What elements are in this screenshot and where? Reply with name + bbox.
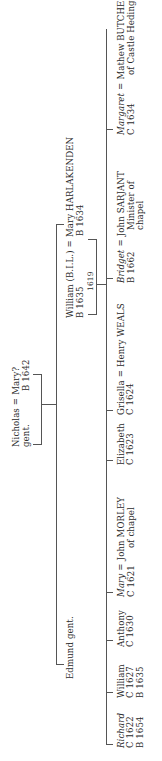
- mary-label: Mary?: [11, 367, 21, 395]
- connector: [106, 592, 113, 593]
- edmund-name: Edmund gent.: [66, 616, 75, 679]
- spouse-name: Henry WEALS: [116, 303, 126, 367]
- connector: [41, 374, 42, 445]
- child-richard: Richard C 1622 B 1654: [117, 713, 145, 748]
- child-elizabeth: Elizabeth C 1623: [117, 423, 136, 465]
- spouse-name: John SARJANT: [116, 171, 126, 236]
- child-date: C 1621: [127, 565, 136, 597]
- marriage-equals: =: [66, 237, 75, 250]
- connector: [106, 278, 113, 279]
- child-bridget: Bridget=John SARJANT: [117, 171, 126, 283]
- marriage-equals: =: [117, 236, 126, 249]
- connector: [96, 284, 106, 285]
- nicholas-note: gent.: [22, 424, 31, 447]
- generation2-bar: [56, 224, 57, 665]
- connector: [96, 239, 97, 315]
- connector: [106, 460, 113, 461]
- child-date: C 1624: [126, 303, 135, 415]
- marriage-equals: =: [117, 560, 126, 573]
- nicholas-label: Nicholas: [11, 408, 21, 447]
- spouse-note: of Castle Hedingham: [127, 0, 136, 75]
- child-margaret: Margaret=Mathew BUTCHER: [117, 0, 126, 135]
- child-date: B 1654: [136, 713, 145, 748]
- mary-harlakenden-label: Mary HARLAKENDEN: [65, 137, 75, 237]
- william-bil-line: William (B.I.L.)=Mary HARLAKENDEN: [66, 137, 75, 318]
- child-date: B 1662: [127, 251, 136, 283]
- child-name: Bridget: [116, 250, 126, 283]
- child-date: C 1634: [127, 103, 136, 135]
- child-anthony: Anthony C 1630: [117, 610, 136, 647]
- connector: [106, 129, 113, 130]
- spouse-note: of chapel: [127, 507, 136, 548]
- child-date: C 1630: [126, 610, 135, 647]
- william-bil-note: B 1635: [76, 286, 85, 318]
- child-date: C 1623: [126, 423, 135, 465]
- nicholas-name: Nicholas=Mary?: [12, 367, 21, 447]
- child-name: Mary: [116, 574, 126, 597]
- connector: [41, 404, 57, 405]
- connector: [56, 224, 64, 225]
- spouse-name: Mathew BUTCHER: [116, 0, 126, 80]
- mary-note: B 1642: [22, 359, 31, 391]
- marriage-equals: =: [12, 395, 21, 408]
- connector: [106, 744, 113, 745]
- connector: [106, 640, 113, 641]
- spouse-name: John MORLEY: [116, 497, 126, 561]
- spouse-note: chapel: [136, 201, 145, 230]
- child-grisella: Grisella=Henry WEALS C 1624: [117, 303, 136, 415]
- child-date: B 1635: [136, 664, 145, 698]
- marriage-equals: =: [117, 80, 126, 93]
- children-bar: [106, 29, 107, 745]
- connector: [56, 664, 64, 665]
- marriage-year: 1619: [86, 271, 95, 291]
- mary-harlakenden-note: B 1634: [76, 204, 85, 236]
- child-name: Margaret: [116, 93, 126, 135]
- child-mary: Mary=John MORLEY: [117, 497, 126, 597]
- connector: [106, 410, 113, 411]
- child-william: William C 1627 B 1635: [117, 664, 145, 698]
- connector: [106, 692, 113, 693]
- william-bil-label: William (B.I.L.): [65, 250, 75, 318]
- family-tree: Nicholas=Mary? gent. B 1642 Edmund gent.…: [0, 0, 162, 761]
- marriage-equals: =: [117, 367, 126, 380]
